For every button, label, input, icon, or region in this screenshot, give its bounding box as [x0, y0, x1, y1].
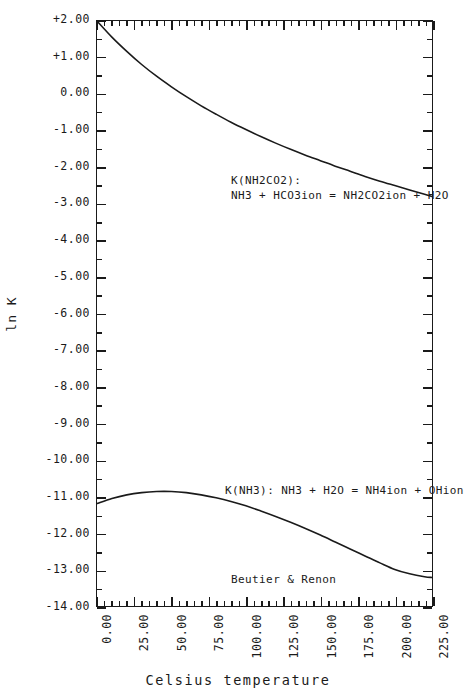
x-tick-bottom-minor — [119, 601, 121, 606]
y-tick-left-minor — [97, 259, 102, 261]
x-tick-top-minor — [126, 21, 128, 26]
y-tick-left-major — [97, 424, 106, 426]
y-tick-right-major — [423, 240, 432, 242]
y-tick-left-minor — [97, 405, 102, 407]
x-tick-top-minor — [328, 21, 330, 26]
y-tick-left-major — [97, 387, 106, 389]
y-tick-right-minor — [427, 589, 432, 591]
y-tick-left-major — [97, 350, 106, 352]
y-tick-label: -14.00 — [45, 601, 90, 613]
x-tick-top-minor — [313, 21, 315, 26]
y-tick-right-minor — [427, 259, 432, 261]
x-tick-top-minor — [298, 21, 300, 26]
y-tick-right-minor — [427, 295, 432, 297]
x-tick-bottom-minor — [149, 601, 151, 606]
y-tick-left-major — [97, 461, 106, 463]
x-tick-top-minor — [388, 21, 390, 26]
x-tick-top-major — [246, 21, 248, 30]
x-tick-top-minor — [194, 21, 196, 26]
y-tick-left-minor — [97, 332, 102, 334]
x-tick-top-minor — [268, 21, 270, 26]
y-tick-right-major — [423, 130, 432, 132]
annotation-carbamate-reaction: K(NH2CO2):NH3 + HCO3ion = NH2CO2ion + H2… — [231, 173, 449, 203]
y-tick-label: +2.00 — [53, 14, 90, 26]
x-tick-label: 225.00 — [439, 614, 451, 659]
x-tick-top-minor — [418, 21, 420, 26]
y-tick-right-minor — [427, 552, 432, 554]
y-tick-right-major — [423, 167, 432, 169]
x-tick-top-minor — [179, 21, 181, 26]
x-tick-bottom-minor — [276, 601, 278, 606]
y-tick-label: 0.00 — [60, 88, 90, 100]
y-tick-right-major — [423, 350, 432, 352]
y-tick-right-minor — [427, 112, 432, 114]
y-tick-label: -8.00 — [53, 381, 90, 393]
y-tick-left-major — [97, 167, 106, 169]
y-tick-left-minor — [97, 442, 102, 444]
x-tick-bottom-minor — [201, 601, 203, 606]
x-tick-top-minor — [239, 21, 241, 26]
annotation-ammonia-reaction: K(NH3): NH3 + H2O = NH4ion + OHion — [225, 483, 464, 498]
y-tick-right-major — [423, 571, 432, 573]
y-tick-right-major — [423, 57, 432, 59]
x-tick-bottom-minor — [426, 601, 428, 606]
annotation-ammonia-line1: K(NH3): NH3 + H2O = NH4ion + OHion — [225, 484, 464, 497]
x-tick-bottom-minor — [141, 601, 143, 606]
x-tick-top-minor — [426, 21, 428, 26]
y-tick-label: -7.00 — [53, 344, 90, 356]
annotation-carbamate-line2: NH3 + HCO3ion = NH2CO2ion + H2O — [231, 189, 449, 202]
x-tick-label: 150.00 — [327, 614, 339, 659]
x-tick-bottom-major — [96, 597, 98, 606]
x-tick-top-major — [134, 21, 136, 30]
y-tick-right-major — [423, 461, 432, 463]
y-tick-label: -13.00 — [45, 565, 90, 577]
x-tick-bottom-major — [433, 597, 435, 606]
x-tick-bottom-major — [358, 597, 360, 606]
y-tick-left-minor — [97, 589, 102, 591]
y-tick-left-minor — [97, 185, 102, 187]
x-tick-top-minor — [366, 21, 368, 26]
curve-layer — [97, 21, 432, 606]
x-tick-top-major — [321, 21, 323, 30]
x-tick-bottom-minor — [366, 601, 368, 606]
x-tick-top-minor — [104, 21, 106, 26]
x-tick-bottom-major — [171, 597, 173, 606]
y-tick-left-major — [97, 204, 106, 206]
x-tick-label: 100.00 — [252, 614, 264, 659]
x-tick-top-major — [96, 21, 98, 30]
y-tick-left-minor — [97, 149, 102, 151]
x-tick-bottom-minor — [126, 601, 128, 606]
x-tick-bottom-minor — [306, 601, 308, 606]
y-tick-label: -5.00 — [53, 271, 90, 283]
y-tick-label: -4.00 — [53, 234, 90, 246]
y-tick-right-minor — [427, 479, 432, 481]
annotation-source-citation: Beutier & Renon — [231, 572, 336, 587]
x-tick-label: 175.00 — [364, 614, 376, 659]
chart-figure: ln K K(NH2CO2):NH3 + HCO3ion = NH2CO2ion… — [0, 0, 476, 698]
x-tick-label: 125.00 — [289, 614, 301, 659]
y-tick-label: -12.00 — [45, 528, 90, 540]
x-tick-bottom-minor — [298, 601, 300, 606]
y-tick-right-minor — [427, 222, 432, 224]
x-tick-top-minor — [119, 21, 121, 26]
x-tick-top-minor — [261, 21, 263, 26]
y-tick-label: -10.00 — [45, 455, 90, 467]
x-tick-bottom-minor — [164, 601, 166, 606]
x-tick-bottom-minor — [156, 601, 158, 606]
y-tick-right-minor — [427, 149, 432, 151]
plot-area: K(NH2CO2):NH3 + HCO3ion = NH2CO2ion + H2… — [96, 20, 433, 607]
x-tick-bottom-minor — [179, 601, 181, 606]
x-tick-top-major — [283, 21, 285, 30]
x-axis-title: Celsius temperature — [0, 672, 476, 688]
x-tick-bottom-minor — [336, 601, 338, 606]
x-tick-top-minor — [276, 21, 278, 26]
y-tick-left-minor — [97, 222, 102, 224]
y-axis-title: ln K — [4, 296, 19, 331]
x-tick-top-minor — [216, 21, 218, 26]
x-tick-bottom-minor — [388, 601, 390, 606]
x-tick-top-major — [358, 21, 360, 30]
y-tick-label: -6.00 — [53, 308, 90, 320]
y-tick-left-major — [97, 94, 106, 96]
annotation-source-line1: Beutier & Renon — [231, 573, 336, 586]
x-tick-top-minor — [411, 21, 413, 26]
